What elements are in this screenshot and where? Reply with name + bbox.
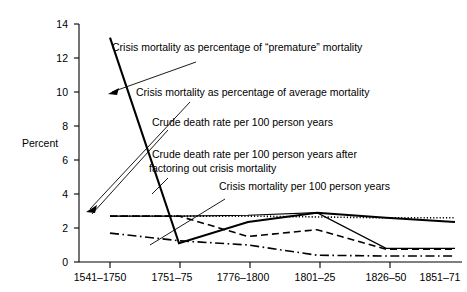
line-chart: 14 12 10 8 6 4 2 0 Percent 1541–1750 175… xyxy=(0,0,467,292)
y-tick-label-6: 6 xyxy=(62,154,68,166)
x-tick-label-2: 1776–1800 xyxy=(217,271,270,283)
y-tick-label-14: 14 xyxy=(56,18,68,30)
x-tick-label-0: 1541–1750 xyxy=(74,271,127,283)
y-tick-marks xyxy=(74,24,79,262)
leader-arrow-1 xyxy=(108,88,119,95)
series-crisis-mortality-rate xyxy=(110,233,455,256)
y-axis-title: Percent xyxy=(22,137,58,149)
x-tick-label-1: 1751–75 xyxy=(152,271,193,283)
y-tick-label-12: 12 xyxy=(56,52,68,64)
y-tick-label-4: 4 xyxy=(62,188,68,200)
leader-line-5 xyxy=(150,199,225,245)
y-tick-label-10: 10 xyxy=(56,86,68,98)
annotation-label-4-line2: factoring out crisis mortality xyxy=(149,162,277,174)
x-tick-label-5: 1851–71 xyxy=(420,271,461,283)
annotation-label-2: Crisis mortality as percentage of averag… xyxy=(136,86,370,98)
x-tick-label-4: 1826–50 xyxy=(366,271,407,283)
leader-line-4 xyxy=(152,178,168,194)
series-crisis-pct-premature xyxy=(110,38,455,244)
y-tick-label-0: 0 xyxy=(62,256,68,268)
series-crude-death-rate-adjusted xyxy=(110,216,455,249)
series-group xyxy=(110,38,455,256)
chart-container: 14 12 10 8 6 4 2 0 Percent 1541–1750 175… xyxy=(0,0,467,292)
annotation-label-3: Crude death rate per 100 person years xyxy=(152,116,333,128)
annotation-label-4-line1: Crude death rate per 100 person years af… xyxy=(152,148,357,160)
y-tick-label-8: 8 xyxy=(62,120,68,132)
x-tick-label-3: 1801–25 xyxy=(295,271,336,283)
annotation-label-1: Crisis mortality as percentage of “prema… xyxy=(112,41,363,53)
annotation-label-5: Crisis mortality per 100 person years xyxy=(219,180,390,192)
leader-arrow-2 xyxy=(86,205,97,213)
x-tick-marks xyxy=(110,262,390,268)
y-tick-label-2: 2 xyxy=(62,222,68,234)
